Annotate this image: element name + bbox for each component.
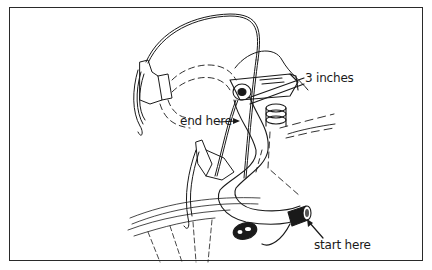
label-three-inches: 3 inches [305, 71, 354, 85]
wheel-spokes [148, 220, 212, 262]
label-start-here: start here [314, 238, 371, 252]
handlebar-illustration [0, 0, 432, 270]
handlebar-stem [230, 74, 298, 126]
label-end-here: end here [180, 114, 232, 128]
bike-frame-tubes [256, 114, 335, 196]
tape-start-end [231, 206, 311, 245]
left-brake-lever [134, 60, 172, 135]
